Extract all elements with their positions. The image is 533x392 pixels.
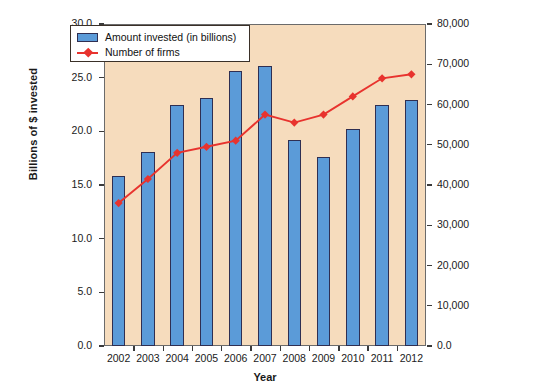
line-marker [290,118,298,126]
legend-label-amount-invested: Amount invested (in billions) [105,32,236,43]
legend-item-bars: Amount invested (in billions) [77,30,243,45]
line-path [119,74,412,203]
chart-figure: Billions of $ invested Number of small c… [0,0,533,392]
chart-legend: Amount invested (in billions) Number of … [70,25,250,62]
line-marker [202,143,210,151]
legend-label-number-of-firms: Number of firms [105,47,180,58]
line-marker [407,70,415,78]
legend-bar-swatch-icon [77,33,98,42]
legend-line-diamond-icon [77,48,98,57]
legend-item-line: Number of firms [77,45,243,60]
